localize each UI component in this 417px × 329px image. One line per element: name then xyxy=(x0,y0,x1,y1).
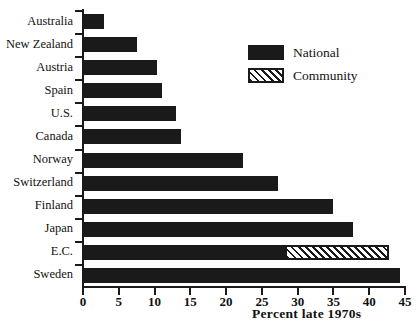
bar-row xyxy=(83,222,405,237)
bar-row xyxy=(83,129,405,144)
y-axis-labels: AustraliaNew ZealandAustriaSpainU.S.Cana… xyxy=(0,0,73,329)
bar-segment-national xyxy=(83,60,157,75)
bar-e-c xyxy=(83,245,389,260)
x-axis-tick-label: 10 xyxy=(135,294,175,309)
x-axis-tick-label: 20 xyxy=(206,294,246,309)
y-axis-label-sweden: Sweden xyxy=(1,268,73,281)
bar-norway xyxy=(83,153,243,168)
x-axis-tick-label: 45 xyxy=(385,294,417,309)
legend-label-national: National xyxy=(293,45,340,60)
bar-row xyxy=(83,14,405,29)
bar-spain xyxy=(83,83,162,98)
bar-segment-national xyxy=(83,83,162,98)
bar-row xyxy=(83,245,405,260)
bar-austria xyxy=(83,60,157,75)
bar-finland xyxy=(83,199,333,214)
bar-u-s xyxy=(83,106,176,121)
bar-segment-national xyxy=(83,106,176,121)
bar-segment-national xyxy=(83,245,287,260)
bar-segment-national xyxy=(83,222,353,237)
bar-chart: AustraliaNew ZealandAustriaSpainU.S.Cana… xyxy=(0,0,417,329)
bar-segment-national xyxy=(83,153,243,168)
y-axis-label-australia: Australia xyxy=(1,15,73,28)
x-axis-tick-label: 5 xyxy=(99,294,139,309)
x-axis-title: Percent late 1970s xyxy=(252,306,361,322)
y-axis-label-e-c: E.C. xyxy=(1,245,73,258)
bar-segment-community xyxy=(287,245,389,260)
bar-sweden xyxy=(83,268,400,283)
bar-switzerland xyxy=(83,176,278,191)
bar-segment-national xyxy=(83,129,181,144)
bar-australia xyxy=(83,14,104,29)
chart-legend: National Community xyxy=(248,44,398,90)
y-axis-label-new-zealand: New Zealand xyxy=(1,38,73,51)
legend-item-community: Community xyxy=(248,67,398,84)
diagonal-hatch-swatch-icon xyxy=(248,68,284,83)
y-axis-label-austria: Austria xyxy=(1,61,73,74)
y-axis-label-u-s: U.S. xyxy=(1,107,73,120)
bar-row xyxy=(83,153,405,168)
bar-segment-national xyxy=(83,176,278,191)
bar-row xyxy=(83,176,405,191)
legend-item-national: National xyxy=(248,44,398,61)
bar-row xyxy=(83,268,405,283)
bar-row xyxy=(83,199,405,214)
y-axis-label-spain: Spain xyxy=(1,84,73,97)
solid-black-swatch-icon xyxy=(248,45,284,60)
bar-segment-national xyxy=(83,268,400,283)
y-axis-label-switzerland: Switzerland xyxy=(1,176,73,189)
y-axis-label-norway: Norway xyxy=(1,153,73,166)
bar-new-zealand xyxy=(83,37,137,52)
legend-label-community: Community xyxy=(293,68,358,83)
bar-segment-national xyxy=(83,14,104,29)
bar-segment-national xyxy=(83,37,137,52)
bar-row xyxy=(83,106,405,121)
y-axis-label-finland: Finland xyxy=(1,199,73,212)
x-axis-tick-label: 0 xyxy=(63,294,103,309)
y-axis-label-canada: Canada xyxy=(1,130,73,143)
bar-japan xyxy=(83,222,353,237)
bar-canada xyxy=(83,129,181,144)
y-axis-label-japan: Japan xyxy=(1,222,73,235)
x-axis-tick-label: 15 xyxy=(170,294,210,309)
bar-segment-national xyxy=(83,199,333,214)
